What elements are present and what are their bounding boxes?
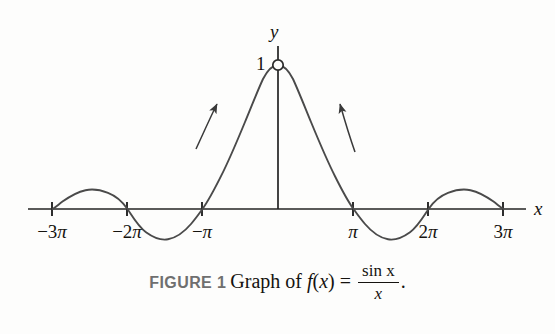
tick-sign: − (192, 221, 203, 242)
close-paren: ) (328, 270, 335, 292)
tick-pi-symbol: π (503, 221, 513, 242)
tick-sign: − (112, 221, 123, 242)
figure-caption-tag: FIGURE 1 (149, 274, 226, 291)
x-axis-label: x (534, 199, 542, 218)
y-axis-label: y (270, 22, 278, 41)
caption-prefix: Graph of (230, 270, 302, 292)
tick-label-2pi: 2π (418, 222, 437, 241)
tick-pi-symbol: π (203, 221, 213, 242)
figure-caption-text: Graph of f(x) = sin x x . (230, 270, 405, 292)
tick-label-3pi: 3π (493, 222, 512, 241)
fraction-numerator: sin x (358, 261, 399, 283)
fraction-denominator: x (358, 283, 399, 304)
arrow-approaching-from-right (340, 104, 355, 152)
tick-label-neg-pi: −π (192, 222, 212, 241)
fraction-sin-x-over-x: sin x x (358, 261, 399, 304)
arrow-approaching-from-left (196, 104, 217, 149)
tick-label-neg-2pi: −2π (112, 222, 142, 241)
tick-label-pi: π (348, 222, 358, 241)
tick-pi-symbol: π (428, 221, 438, 242)
tick-pi-symbol: π (57, 221, 67, 242)
tick-pi-symbol: π (132, 221, 142, 242)
y-value-label-1: 1 (256, 54, 266, 73)
caption-period: . (401, 270, 406, 292)
equals-sign: = (340, 270, 351, 292)
open-circle-discontinuity-marker (273, 60, 283, 70)
tick-number: 3 (493, 221, 503, 242)
tick-number: 3 (48, 221, 58, 242)
tick-pi-symbol: π (348, 221, 358, 242)
function-argument: x (319, 270, 328, 292)
tick-label-neg-3pi: −3π (37, 222, 67, 241)
tick-number: 2 (418, 221, 428, 242)
tick-sign: − (37, 221, 48, 242)
tick-number: 2 (123, 221, 133, 242)
figure-container: y x 1 −3π −2π −π π 2π 3π FIGURE 1 Graph … (0, 0, 555, 334)
figure-caption: FIGURE 1 Graph of f(x) = sin x x . (0, 262, 555, 305)
